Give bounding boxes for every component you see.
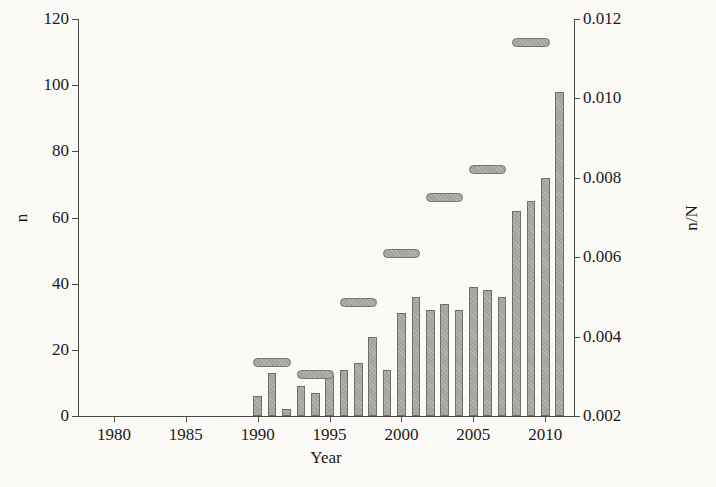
ratio-marker <box>469 165 506 174</box>
y-axis-right-tick-label: 0.008 <box>583 168 621 188</box>
bar <box>469 287 478 416</box>
bar <box>268 373 277 416</box>
bar <box>282 409 291 416</box>
bar <box>555 92 564 416</box>
y-axis-left-tick-label: 20 <box>52 340 69 360</box>
bar <box>541 178 550 416</box>
x-axis-tick-label: 2010 <box>528 425 562 445</box>
y-axis-right-tick-label: 0.012 <box>583 9 621 29</box>
bar <box>440 304 449 416</box>
y-axis-right-tick-label: 0.010 <box>583 88 621 108</box>
y-axis-left-tick <box>72 218 78 219</box>
y-axis-left-tick <box>72 85 78 86</box>
y-axis-left-tick-label: 40 <box>52 274 69 294</box>
plot-area: 020406080100120 0.0020.0040.0060.0080.01… <box>78 19 574 416</box>
y-axis-left-tick <box>72 416 78 417</box>
ratio-marker <box>426 193 463 202</box>
y-axis-label-left: n <box>12 214 32 223</box>
bar <box>397 313 406 416</box>
y-axis-left-tick <box>72 284 78 285</box>
ratio-marker <box>340 298 377 307</box>
x-axis-tick-label: 1995 <box>313 425 347 445</box>
bar <box>483 290 492 416</box>
y-axis-right-tick-label: 0.006 <box>583 247 621 267</box>
x-axis-tick-label: 1990 <box>241 425 275 445</box>
y-axis-left-tick-label: 0 <box>61 406 70 426</box>
x-axis-tick-label: 1985 <box>169 425 203 445</box>
y-axis-right-tick-label: 0.002 <box>583 406 621 426</box>
bar <box>426 310 435 416</box>
y-axis-right-tick <box>574 98 580 99</box>
bar <box>325 376 334 416</box>
bar <box>527 201 536 416</box>
y-axis-right-tick <box>574 19 580 20</box>
y-axis-left-tick-label: 120 <box>44 9 70 29</box>
ratio-marker <box>512 38 549 47</box>
y-axis-left-tick <box>72 19 78 20</box>
y-axis-right-tick <box>574 416 580 417</box>
x-axis-tick-label: 2005 <box>456 425 490 445</box>
x-axis-label: Year <box>310 448 341 468</box>
y-axis-label-right: n/N <box>682 205 702 231</box>
bar <box>297 386 306 416</box>
bar <box>311 393 320 416</box>
bar <box>512 211 521 416</box>
x-axis-tick-label: 1980 <box>97 425 131 445</box>
x-axis-tick-label: 2000 <box>384 425 418 445</box>
y-axis-left-tick-label: 100 <box>44 75 70 95</box>
x-axis-tick <box>330 416 331 422</box>
ratio-marker <box>297 370 334 379</box>
ratio-marker <box>383 249 420 258</box>
y-axis-right-tick <box>574 337 580 338</box>
ratio-marker <box>253 358 290 367</box>
y-axis-right-line <box>574 19 575 417</box>
bar <box>498 297 507 416</box>
bar <box>354 363 363 416</box>
x-axis-tick <box>114 416 115 422</box>
x-axis-tick <box>401 416 402 422</box>
bar <box>383 370 392 416</box>
y-axis-left-tick <box>72 350 78 351</box>
bar <box>412 297 421 416</box>
x-axis-line <box>78 416 575 417</box>
chart-figure: n n/N Year 020406080100120 0.0020.0040.0… <box>0 0 716 487</box>
bar <box>455 310 464 416</box>
y-axis-left-tick-label: 60 <box>52 208 69 228</box>
y-axis-right-tick-label: 0.004 <box>583 327 621 347</box>
y-axis-left-tick-label: 80 <box>52 141 69 161</box>
x-axis-tick <box>186 416 187 422</box>
x-axis-tick <box>545 416 546 422</box>
bar <box>340 370 349 416</box>
bar <box>253 396 262 416</box>
y-axis-right-tick <box>574 257 580 258</box>
x-axis-tick <box>473 416 474 422</box>
y-axis-right-tick <box>574 178 580 179</box>
y-axis-left-tick <box>72 151 78 152</box>
x-axis-tick <box>258 416 259 422</box>
bar <box>368 337 377 416</box>
